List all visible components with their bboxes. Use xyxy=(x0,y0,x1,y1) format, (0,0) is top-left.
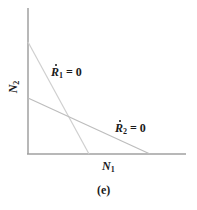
r2-var: R xyxy=(115,122,123,134)
plot-canvas xyxy=(0,0,197,210)
isocline-r2-label: R2 = 0 xyxy=(115,122,146,136)
x-label-var: N xyxy=(102,159,111,173)
r1-rhs: = 0 xyxy=(63,65,82,79)
isocline-r1-label: R1 = 0 xyxy=(51,66,82,80)
x-axis-label: N1 xyxy=(102,160,115,174)
r1-var: R xyxy=(51,66,59,78)
y-label-var: N xyxy=(6,85,20,94)
isocline-r1 xyxy=(28,42,89,154)
x-label-sub: 1 xyxy=(111,165,115,174)
y-label-sub: 2 xyxy=(12,81,21,85)
phase-plane-figure: R1 = 0 R2 = 0 N1 N2 (e) xyxy=(0,0,197,210)
y-axis-label: N2 xyxy=(7,81,21,94)
figure-caption: (e) xyxy=(97,184,110,196)
r2-rhs: = 0 xyxy=(127,121,146,135)
